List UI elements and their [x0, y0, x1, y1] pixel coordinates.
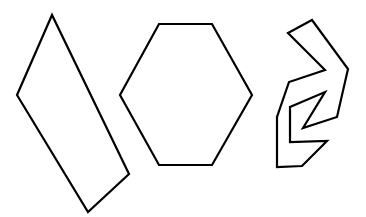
irregular-polygon-shape — [277, 20, 348, 167]
quadrilateral-shape — [17, 15, 129, 212]
hexagon-shape — [120, 24, 252, 165]
shapes-diagram — [0, 0, 366, 217]
